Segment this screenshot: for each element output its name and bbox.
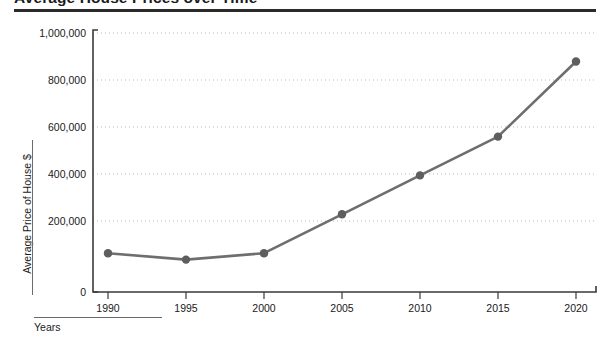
x-tick-label-2005: 2005 <box>330 302 354 314</box>
y-tick-label-600000: 600,000 <box>48 121 86 133</box>
series-markers <box>104 57 580 264</box>
x-tick-label-1995: 1995 <box>174 302 198 314</box>
data-point-2005 <box>338 210 346 218</box>
y-tick-label-800000: 800,000 <box>48 74 86 86</box>
y-tick-label-1000000: 1,000,000 <box>39 27 86 39</box>
x-tick-label-2020: 2020 <box>564 302 588 314</box>
y-axis-line <box>93 30 98 292</box>
x-axis-label: Years <box>34 318 164 333</box>
data-series-house-price <box>104 57 580 264</box>
data-point-1995 <box>182 255 190 263</box>
line-chart-plot: 1,000,000 800,000 600,000 400,000 200,00… <box>0 0 610 350</box>
chart-figure: Average House Prices over Time Average P… <box>0 0 610 350</box>
data-point-2020 <box>572 57 580 65</box>
data-point-2015 <box>494 132 502 140</box>
y-tick-label-200000: 200,000 <box>48 215 86 227</box>
x-axis-line <box>93 286 596 292</box>
data-point-1990 <box>104 249 112 257</box>
data-point-2000 <box>260 249 268 257</box>
x-axis: 1990 1995 2000 2005 2010 2015 2020 <box>93 286 596 314</box>
y-tick-label-400000: 400,000 <box>48 168 86 180</box>
x-tick-label-2015: 2015 <box>486 302 510 314</box>
y-axis: 1,000,000 800,000 600,000 400,000 200,00… <box>39 27 98 298</box>
x-tick-label-1990: 1990 <box>96 302 120 314</box>
gridlines <box>93 33 596 221</box>
y-tick-label-0: 0 <box>80 286 86 298</box>
series-line <box>108 62 576 260</box>
x-axis-caption: Years <box>34 317 164 333</box>
data-point-2010 <box>416 171 424 179</box>
x-tick-label-2000: 2000 <box>252 302 276 314</box>
x-tick-label-2010: 2010 <box>408 302 432 314</box>
